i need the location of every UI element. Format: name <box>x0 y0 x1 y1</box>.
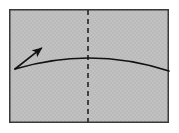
origami-fold-diagram: Paper sheet with vertical dashed crease … <box>0 0 179 133</box>
figure-container: Paper sheet with vertical dashed crease … <box>0 0 179 133</box>
paper-sheet-shading <box>11 11 168 122</box>
